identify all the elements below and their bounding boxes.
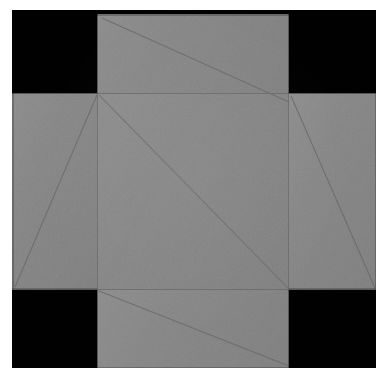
box-panel-top-flap: [97, 14, 289, 103]
paper-grain-texture: [97, 289, 289, 368]
paper-grain-texture: [97, 14, 289, 103]
paper-grain-texture: [97, 93, 289, 289]
box-panel-right-flap: [289, 93, 376, 289]
box-panel-bottom-flap: [97, 289, 289, 368]
paper-grain-texture: [12, 93, 97, 289]
photo-plate-background: [12, 10, 376, 368]
box-panel-left-flap: [12, 93, 97, 289]
image-canvas: Unfolded cardboard box net Top-down phot…: [0, 0, 388, 379]
paper-grain-texture: [289, 93, 376, 289]
box-panel-center-base: [97, 93, 289, 289]
